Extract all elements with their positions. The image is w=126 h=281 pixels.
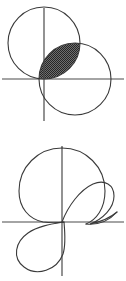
limacon-curve-svg	[0, 140, 126, 281]
outer-lobe-left-arc	[19, 148, 64, 223]
lower-left-lobe	[16, 222, 65, 272]
outer-lobe-upper-right-arc	[62, 148, 105, 224]
figure-limacon-curve	[0, 140, 126, 281]
figure-page	[0, 0, 126, 281]
overlapping-circles-svg	[0, 0, 126, 140]
figure-overlapping-circles	[0, 0, 126, 140]
inner-right-loop	[62, 182, 117, 224]
